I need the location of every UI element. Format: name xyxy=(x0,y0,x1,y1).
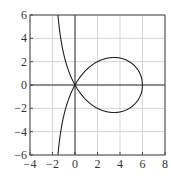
x-tick-label: 2 xyxy=(95,157,101,171)
y-tick-labels: −6−4−20246 xyxy=(14,8,27,162)
y-tick-label: 2 xyxy=(21,55,27,69)
y-tick-label: 0 xyxy=(21,78,27,92)
x-tick-label: 8 xyxy=(162,157,168,171)
y-tick-label: 4 xyxy=(21,31,27,45)
x-tick-label: 4 xyxy=(117,157,123,171)
y-tick-label: −4 xyxy=(14,125,27,139)
x-tick-label: −2 xyxy=(46,157,59,171)
x-tick-labels: −4−202468 xyxy=(24,157,168,171)
x-tick-label: 0 xyxy=(72,157,78,171)
y-tick-label: 6 xyxy=(21,8,27,22)
y-tick-label: −2 xyxy=(14,101,27,115)
chart: −4−202468 −6−4−20246 xyxy=(0,0,171,178)
y-tick-label: −6 xyxy=(14,148,27,162)
x-tick-label: 6 xyxy=(140,157,146,171)
